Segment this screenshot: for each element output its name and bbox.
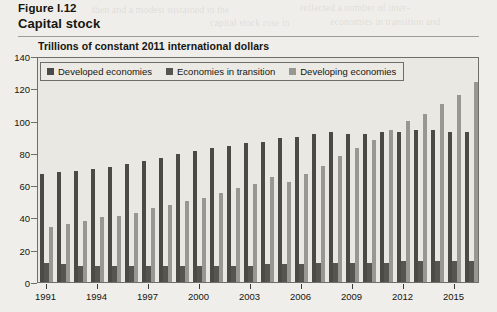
bar-developed[interactable]	[363, 134, 367, 283]
legend-item-developed[interactable]: Developed economies	[47, 66, 152, 77]
bar-developed[interactable]	[176, 154, 180, 282]
bar-group	[293, 58, 310, 282]
bar-transition[interactable]	[44, 263, 48, 282]
bar-transition[interactable]	[197, 266, 201, 282]
bar-transition[interactable]	[180, 266, 184, 282]
x-tick-label: 2015	[443, 291, 464, 302]
bar-group	[89, 58, 106, 282]
bar-transition[interactable]	[248, 266, 252, 282]
bar-transition[interactable]	[333, 263, 337, 282]
bar-developed[interactable]	[57, 172, 61, 282]
y-tick-label: 60	[4, 181, 30, 192]
bar-transition[interactable]	[350, 263, 354, 282]
bar-transition[interactable]	[282, 264, 286, 282]
bar-developing[interactable]	[474, 82, 478, 282]
bar-developed[interactable]	[261, 142, 265, 282]
bar-transition[interactable]	[316, 263, 320, 282]
chart-subtitle: Trillions of constant 2011 international…	[38, 40, 269, 52]
bar-group	[361, 58, 378, 282]
bar-transition[interactable]	[129, 266, 133, 282]
bar-developing[interactable]	[83, 221, 87, 282]
bar-developing[interactable]	[355, 148, 359, 282]
legend-item-developing[interactable]: Developing economies	[289, 66, 396, 77]
y-tick-label: 80	[4, 148, 30, 159]
bar-developing[interactable]	[372, 140, 376, 282]
bar-transition[interactable]	[435, 261, 439, 282]
bar-group	[38, 58, 55, 282]
bar-developed[interactable]	[159, 158, 163, 282]
bar-transition[interactable]	[384, 263, 388, 282]
bar-developing[interactable]	[423, 114, 427, 282]
bar-developed[interactable]	[346, 134, 350, 283]
bar-transition[interactable]	[401, 261, 405, 282]
bar-developing[interactable]	[151, 208, 155, 282]
bar-developing[interactable]	[457, 95, 461, 282]
bar-developed[interactable]	[278, 138, 282, 282]
bar-transition[interactable]	[231, 266, 235, 282]
bar-developing[interactable]	[117, 216, 121, 282]
bar-developing[interactable]	[49, 227, 53, 282]
bar-developing[interactable]	[202, 198, 206, 282]
bar-developed[interactable]	[210, 148, 214, 282]
bar-group	[191, 58, 208, 282]
bars-container	[38, 58, 478, 282]
bar-developing[interactable]	[236, 188, 240, 282]
bar-developed[interactable]	[397, 132, 401, 282]
bar-developed[interactable]	[244, 143, 248, 282]
bar-developing[interactable]	[304, 174, 308, 282]
bar-developed[interactable]	[142, 161, 146, 282]
bar-developed[interactable]	[312, 134, 316, 283]
bar-developed[interactable]	[40, 174, 44, 282]
bar-developing[interactable]	[440, 104, 444, 282]
y-tick-label: 100	[4, 116, 30, 127]
bar-transition[interactable]	[61, 264, 65, 282]
bar-developed[interactable]	[414, 130, 418, 282]
bar-developed[interactable]	[448, 132, 452, 282]
x-tick-mark	[301, 284, 302, 289]
bar-developed[interactable]	[329, 132, 333, 282]
bar-transition[interactable]	[265, 264, 269, 282]
bar-transition[interactable]	[418, 261, 422, 282]
bar-transition[interactable]	[163, 266, 167, 282]
bar-developing[interactable]	[66, 224, 70, 282]
bar-developing[interactable]	[219, 193, 223, 282]
bar-transition[interactable]	[112, 266, 116, 282]
bar-developing[interactable]	[338, 156, 342, 282]
title-divider	[18, 36, 479, 37]
bar-transition[interactable]	[452, 261, 456, 282]
bar-developed[interactable]	[380, 132, 384, 282]
x-tick-mark	[46, 284, 47, 289]
bar-developing[interactable]	[389, 130, 393, 282]
bar-developed[interactable]	[431, 130, 435, 282]
bar-developing[interactable]	[287, 182, 291, 282]
bar-transition[interactable]	[367, 263, 371, 282]
bar-developed[interactable]	[108, 167, 112, 282]
bar-transition[interactable]	[95, 266, 99, 282]
bar-developed[interactable]	[193, 151, 197, 282]
bar-group	[242, 58, 259, 282]
bar-developed[interactable]	[465, 132, 469, 282]
bar-transition[interactable]	[214, 266, 218, 282]
y-tick-mark	[31, 283, 37, 284]
bar-developed[interactable]	[227, 146, 231, 282]
bar-developing[interactable]	[253, 184, 257, 282]
bar-developing[interactable]	[100, 217, 104, 282]
bar-group	[157, 58, 174, 282]
bar-developing[interactable]	[168, 205, 172, 282]
bar-developing[interactable]	[134, 213, 138, 282]
figure-caption: Figure I.12	[18, 2, 77, 14]
bar-transition[interactable]	[299, 264, 303, 282]
legend-item-transition[interactable]: Economies in transition	[166, 66, 275, 77]
bar-developed[interactable]	[295, 137, 299, 282]
bar-developed[interactable]	[125, 164, 129, 282]
bar-transition[interactable]	[146, 266, 150, 282]
bar-transition[interactable]	[78, 266, 82, 282]
bar-developed[interactable]	[91, 169, 95, 282]
bar-developing[interactable]	[185, 201, 189, 282]
bar-developing[interactable]	[321, 166, 325, 282]
bar-developing[interactable]	[406, 121, 410, 282]
bar-developed[interactable]	[74, 171, 78, 282]
bar-transition[interactable]	[469, 261, 473, 282]
bar-developing[interactable]	[270, 177, 274, 282]
x-tick-label: 1997	[137, 291, 158, 302]
